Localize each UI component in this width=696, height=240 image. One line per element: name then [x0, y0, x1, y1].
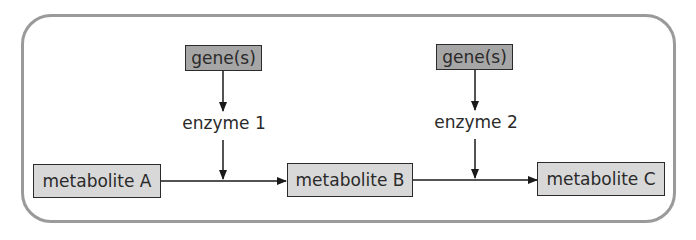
- metabolite-c-label: metabolite C: [546, 169, 655, 189]
- metabolite-a-box: metabolite A: [33, 164, 161, 198]
- gene-box-1: gene(s): [185, 45, 262, 71]
- metabolite-b-box: metabolite B: [287, 163, 413, 197]
- enzyme-2-label: enzyme 2: [434, 112, 517, 132]
- gene-box-2: gene(s): [436, 44, 513, 70]
- gene-label-2: gene(s): [442, 47, 507, 67]
- gene-label-1: gene(s): [191, 48, 256, 68]
- metabolite-b-label: metabolite B: [296, 170, 405, 190]
- enzyme-1-label: enzyme 1: [182, 113, 265, 133]
- metabolite-a-label: metabolite A: [43, 171, 152, 191]
- metabolite-c-box: metabolite C: [537, 162, 665, 196]
